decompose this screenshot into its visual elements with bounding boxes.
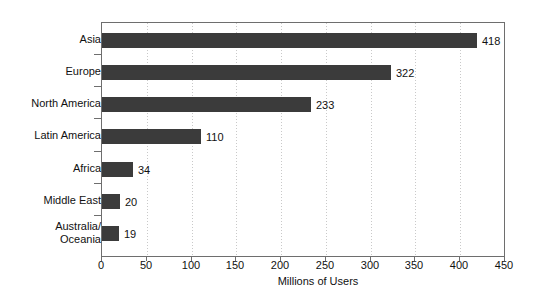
bar-row: 19	[102, 226, 504, 241]
bar-europe[interactable]	[102, 65, 391, 80]
bar-middle-east[interactable]	[102, 194, 120, 209]
x-axis-ticks	[101, 257, 505, 262]
category-label-africa: Africa	[6, 162, 101, 174]
x-tick-label: 450	[495, 259, 513, 271]
category-label-north-america: North America	[6, 97, 101, 109]
bar-row: 110	[102, 129, 504, 144]
bar-value-label: 418	[482, 35, 500, 46]
x-axis-title-text: Millions of Users	[278, 275, 359, 287]
y-axis-tick	[94, 118, 101, 119]
bar-value-label: 233	[316, 99, 334, 110]
category-label-australia-oceania: Australia/ Oceania	[6, 220, 101, 246]
x-tick-label: 350	[405, 259, 423, 271]
bar-north-america[interactable]	[102, 97, 311, 112]
x-tick-label: 250	[316, 259, 334, 271]
y-axis-tick	[94, 151, 101, 152]
category-label-latin-america: Latin America	[6, 129, 101, 141]
bar-asia[interactable]	[102, 33, 477, 48]
bar-latin-america[interactable]	[102, 129, 201, 144]
bar-row: 322	[102, 65, 504, 80]
bar-value-label: 34	[138, 164, 150, 175]
x-axis-title: Millions of Users	[0, 275, 536, 287]
x-tick-label: 400	[450, 259, 468, 271]
y-axis-tick	[94, 86, 101, 87]
x-tick-label: 0	[98, 259, 104, 271]
x-tick-label: 100	[182, 259, 200, 271]
y-axis-tick	[94, 183, 101, 184]
x-tick-label: 300	[361, 259, 379, 271]
category-label-europe: Europe	[6, 65, 101, 77]
bar-value-label: 322	[396, 67, 414, 78]
category-label-middle-east: Middle East	[6, 194, 101, 206]
bar-australia-oceania[interactable]	[102, 226, 119, 241]
bar-row: 34	[102, 162, 504, 177]
bar-value-label: 20	[125, 196, 137, 207]
x-tick-label: 50	[140, 259, 152, 271]
bar-row: 418	[102, 33, 504, 48]
y-axis-tick	[94, 54, 101, 55]
plot-area: 418 322 233 110 34 20 19	[101, 22, 505, 257]
category-axis: Asia Europe North America Latin America …	[0, 0, 101, 294]
y-axis-tick	[94, 215, 101, 216]
bar-row: 233	[102, 97, 504, 112]
bar-africa[interactable]	[102, 162, 133, 177]
bar-row: 20	[102, 194, 504, 209]
x-tick-label: 200	[271, 259, 289, 271]
bar-chart-figure: 418 322 233 110 34 20 19 Asia Eu	[0, 0, 536, 294]
bar-value-label: 110	[206, 131, 224, 142]
category-label-asia: Asia	[6, 33, 101, 45]
bar-value-label: 19	[124, 228, 136, 239]
x-tick-label: 150	[226, 259, 244, 271]
